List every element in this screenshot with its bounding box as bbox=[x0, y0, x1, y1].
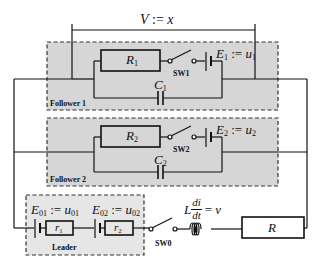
e01-label: E01 := u01 bbox=[31, 203, 79, 218]
sw0-label: SW0 bbox=[155, 240, 171, 248]
assign-op: := bbox=[152, 12, 164, 27]
e2-label: E2 := u2 bbox=[216, 123, 256, 138]
state-symbol: x bbox=[167, 12, 173, 27]
c2-label: C2 bbox=[154, 153, 167, 168]
e1-label: E1 := u1 bbox=[216, 47, 256, 62]
velocity-symbol: v bbox=[215, 203, 221, 216]
leader-label: Leader bbox=[52, 244, 76, 252]
r1-small-label: r1 bbox=[55, 222, 63, 235]
sw2-label: SW2 bbox=[173, 146, 189, 154]
voltage-symbol: V bbox=[140, 12, 149, 27]
inductor-equation: L di dt = v bbox=[184, 197, 221, 221]
voltage-measure-label: V := x bbox=[140, 13, 174, 27]
sw1-label: SW1 bbox=[173, 70, 189, 78]
circuit-diagram: V := x R1 SW1 E1 := u1 C1 Follower 1 R2 … bbox=[0, 0, 320, 269]
inductance-symbol: L bbox=[184, 203, 191, 216]
e02-label: E02 := u02 bbox=[92, 203, 140, 218]
r2-small-label: r2 bbox=[114, 222, 122, 235]
c1-label: C1 bbox=[154, 78, 167, 93]
follower-1-label: Follower 1 bbox=[50, 100, 86, 108]
load-resistor-label: R bbox=[268, 221, 276, 234]
derivative-fraction: di dt bbox=[191, 197, 202, 221]
follower-2-label: Follower 2 bbox=[50, 176, 86, 184]
r2-label: R2 bbox=[126, 129, 138, 144]
r1-label: R1 bbox=[126, 53, 138, 68]
